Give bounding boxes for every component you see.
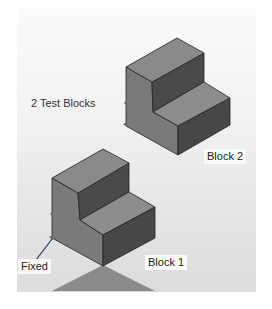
block-1-shadow xyxy=(52,265,155,291)
block-2-label: Block 2 xyxy=(204,149,246,164)
block-1-shape xyxy=(52,149,155,266)
fixed-leader-line xyxy=(36,239,52,260)
figure-caption: 2 Test Blocks xyxy=(31,97,96,110)
block-1-label: Block 1 xyxy=(145,255,187,270)
fixed-constraint-label: Fixed xyxy=(18,259,51,274)
block-2-shape xyxy=(126,38,230,155)
